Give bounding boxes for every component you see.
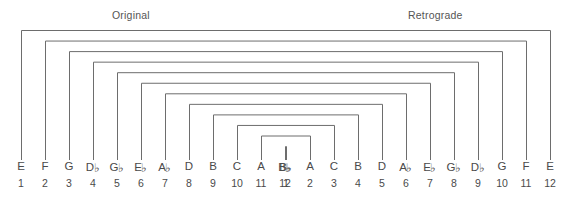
order-number-original-4: 4 bbox=[90, 177, 96, 189]
order-number-original-10: 10 bbox=[231, 177, 243, 189]
tick-retrograde-1 bbox=[286, 150, 287, 160]
order-number-retrograde-4: 4 bbox=[355, 177, 361, 189]
tick-retrograde-8 bbox=[454, 150, 455, 160]
note-label-original-8: D bbox=[185, 160, 193, 172]
order-number-original-3: 3 bbox=[66, 177, 72, 189]
note-label-original-9: B bbox=[209, 160, 217, 172]
note-label-retrograde-6: A♭ bbox=[399, 160, 413, 174]
tick-retrograde-3 bbox=[334, 150, 335, 160]
order-number-retrograde-8: 8 bbox=[451, 177, 457, 189]
tick-retrograde-6 bbox=[406, 150, 407, 160]
tick-retrograde-11 bbox=[526, 150, 527, 160]
order-number-retrograde-7: 7 bbox=[427, 177, 433, 189]
order-number-retrograde-12: 12 bbox=[544, 177, 556, 189]
tick-retrograde-4 bbox=[358, 150, 359, 160]
order-number-original-6: 6 bbox=[138, 177, 144, 189]
tick-original-9 bbox=[213, 150, 214, 160]
order-number-original-8: 8 bbox=[186, 177, 192, 189]
tick-original-7 bbox=[165, 150, 166, 160]
note-label-retrograde-3: C bbox=[330, 160, 338, 172]
tick-original-2 bbox=[45, 150, 46, 160]
note-label-original-3: G bbox=[65, 160, 74, 172]
order-number-original-7: 7 bbox=[162, 177, 168, 189]
note-label-original-5: G♭ bbox=[110, 160, 125, 174]
order-number-retrograde-11: 11 bbox=[521, 177, 532, 189]
note-label-original-1: E bbox=[17, 160, 25, 172]
note-label-original-6: E♭ bbox=[134, 160, 148, 174]
tick-retrograde-5 bbox=[382, 150, 383, 160]
order-number-retrograde-5: 5 bbox=[379, 177, 385, 189]
note-label-retrograde-9: D♭ bbox=[471, 160, 485, 174]
bracket-level-4 bbox=[94, 62, 479, 160]
tick-retrograde-9 bbox=[478, 150, 479, 160]
note-label-original-11: A bbox=[257, 160, 265, 172]
order-number-retrograde-10: 10 bbox=[496, 177, 508, 189]
tick-retrograde-10 bbox=[502, 150, 503, 160]
order-number-retrograde-9: 9 bbox=[475, 177, 481, 189]
order-number-retrograde-2: 2 bbox=[307, 177, 313, 189]
note-label-retrograde-12: E bbox=[546, 160, 554, 172]
note-label-retrograde-8: G♭ bbox=[447, 160, 462, 174]
order-number-original-9: 9 bbox=[210, 177, 216, 189]
tick-original-1 bbox=[21, 150, 22, 160]
tick-original-10 bbox=[237, 150, 238, 160]
note-label-retrograde-2: A bbox=[306, 160, 314, 172]
note-label-retrograde-1: B♭ bbox=[279, 160, 293, 174]
tick-original-6 bbox=[141, 150, 142, 160]
note-label-original-7: A♭ bbox=[158, 160, 172, 174]
order-number-original-1: 1 bbox=[18, 177, 24, 189]
order-number-retrograde-1: 1 bbox=[283, 177, 289, 189]
note-label-retrograde-4: B bbox=[354, 160, 362, 172]
tick-retrograde-12 bbox=[550, 150, 551, 160]
order-number-retrograde-3: 3 bbox=[331, 177, 337, 189]
note-label-retrograde-7: E♭ bbox=[423, 160, 437, 174]
order-number-original-11: 11 bbox=[256, 177, 267, 189]
score-diagram-canvas: Original Retrograde E1F2G3D♭4G♭5E♭6A♭7D8… bbox=[0, 0, 571, 200]
tick-original-5 bbox=[117, 150, 118, 160]
order-number-retrograde-6: 6 bbox=[403, 177, 409, 189]
tick-retrograde-7 bbox=[430, 150, 431, 160]
tick-retrograde-2 bbox=[310, 150, 311, 160]
bracket-level-1 bbox=[22, 31, 551, 161]
order-number-original-2: 2 bbox=[42, 177, 48, 189]
note-label-retrograde-10: G bbox=[498, 160, 507, 172]
tick-original-4 bbox=[93, 150, 94, 160]
tick-original-3 bbox=[69, 150, 70, 160]
note-label-original-2: F bbox=[41, 160, 48, 172]
order-number-original-5: 5 bbox=[114, 177, 120, 189]
note-label-retrograde-5: D bbox=[378, 160, 386, 172]
tick-original-11 bbox=[261, 150, 262, 160]
note-label-original-4: D♭ bbox=[86, 160, 100, 174]
tick-original-8 bbox=[189, 150, 190, 160]
note-label-original-10: C bbox=[233, 160, 241, 172]
bracket-level-3 bbox=[70, 52, 503, 160]
note-label-retrograde-11: F bbox=[522, 160, 529, 172]
